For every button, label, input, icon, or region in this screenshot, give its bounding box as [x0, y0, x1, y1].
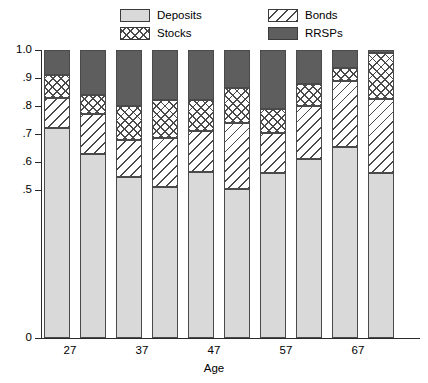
- bar-segment-stocks: [260, 109, 286, 133]
- bar-segment-stocks: [224, 88, 250, 123]
- y-axis-tick-label: 0: [26, 331, 32, 344]
- bar-segment-rrsps: [44, 50, 70, 75]
- chart-legend: Deposits Bonds Stocks RRSPs: [120, 6, 420, 42]
- bar-segment-bonds: [260, 133, 286, 174]
- bar-segment-rrsps: [152, 50, 178, 100]
- bar-segment-stocks: [332, 68, 358, 81]
- y-axis-tick-label: .7: [22, 127, 32, 140]
- bar-segment-stocks: [368, 53, 394, 99]
- legend-label-deposits: Deposits: [157, 9, 202, 22]
- bar-segment-bonds: [152, 138, 178, 187]
- bar-segment-rrsps: [332, 50, 358, 68]
- y-axis-tick: .8: [35, 106, 41, 107]
- y-axis-tick: .7: [35, 134, 41, 135]
- x-axis-tick-label: 27: [40, 344, 100, 357]
- y-axis-tick: .9: [35, 78, 41, 79]
- legend-item-bonds: Bonds: [268, 8, 338, 23]
- bar-segment-deposits: [296, 159, 322, 338]
- x-axis-tick-label: 57: [256, 344, 316, 357]
- bar-segment-bonds: [332, 81, 358, 147]
- x-axis-line: [41, 338, 420, 339]
- bar-segment-deposits: [152, 187, 178, 338]
- bar-segment-deposits: [368, 173, 394, 338]
- y-axis-tick: 1.0: [35, 50, 41, 51]
- legend-label-rrsps: RRSPs: [305, 27, 343, 40]
- legend-item-stocks: Stocks: [120, 26, 192, 41]
- bar-segment-deposits: [332, 147, 358, 338]
- x-axis-tick-label: 67: [328, 344, 388, 357]
- bar-segment-rrsps: [260, 50, 286, 109]
- bar-segment-rrsps: [224, 50, 250, 88]
- bar-segment-bonds: [224, 123, 250, 189]
- bar-62: [296, 50, 322, 338]
- bar-segment-rrsps: [116, 50, 142, 106]
- bar-segment-bonds: [296, 106, 322, 159]
- bar-57: [260, 50, 286, 338]
- bar-segment-stocks: [44, 75, 70, 97]
- legend-swatch-deposits-icon: [120, 9, 150, 22]
- y-axis-tick: .6: [35, 162, 41, 163]
- legend-item-deposits: Deposits: [120, 8, 202, 23]
- bar-47: [188, 50, 214, 338]
- legend-swatch-rrsps-icon: [268, 27, 298, 40]
- y-axis-line: [41, 50, 42, 339]
- bar-segment-rrsps: [296, 50, 322, 84]
- stacked-bar-chart: Deposits Bonds Stocks RRSPs 1.0.9.8.7.6.…: [0, 0, 428, 383]
- bar-segment-bonds: [368, 99, 394, 173]
- x-axis-tick-label: 47: [184, 344, 244, 357]
- y-axis-tick: .5: [35, 190, 41, 191]
- y-axis-tick-label: .5: [22, 183, 32, 196]
- y-axis-tick-label: .8: [22, 99, 32, 112]
- y-axis-tick: 0: [35, 338, 41, 339]
- bar-segment-bonds: [188, 131, 214, 172]
- bar-segment-rrsps: [188, 50, 214, 100]
- bar-segment-stocks: [188, 100, 214, 131]
- y-axis-tick-label: .9: [22, 71, 32, 84]
- legend-label-bonds: Bonds: [305, 9, 338, 22]
- bar-segment-bonds: [80, 114, 106, 153]
- bar-segment-deposits: [188, 172, 214, 338]
- legend-swatch-bonds-icon: [268, 9, 298, 22]
- bar-segment-stocks: [80, 95, 106, 115]
- bar-42: [152, 50, 178, 338]
- y-axis-tick-label: 1.0: [16, 43, 32, 56]
- bar-67: [332, 50, 358, 338]
- bar-segment-stocks: [116, 106, 142, 140]
- bar-27: [44, 50, 70, 338]
- bar-37: [116, 50, 142, 338]
- bar-segment-stocks: [152, 100, 178, 138]
- legend-item-rrsps: RRSPs: [268, 26, 343, 41]
- bar-72: [368, 50, 394, 338]
- plot-area: 1.0.9.8.7.6.50 2737475767: [41, 50, 420, 338]
- bar-52: [224, 50, 250, 338]
- bar-segment-bonds: [116, 140, 142, 178]
- x-axis-title: Age: [0, 362, 428, 375]
- bar-segment-bonds: [44, 98, 70, 129]
- legend-swatch-stocks-icon: [120, 27, 150, 40]
- legend-label-stocks: Stocks: [157, 27, 192, 40]
- bar-32: [80, 50, 106, 338]
- bar-segment-deposits: [80, 154, 106, 338]
- x-axis-tick-label: 37: [112, 344, 172, 357]
- bar-segment-deposits: [260, 173, 286, 338]
- bar-segment-deposits: [224, 189, 250, 338]
- bar-segment-deposits: [44, 128, 70, 338]
- bar-segment-stocks: [296, 84, 322, 106]
- bar-segment-deposits: [116, 177, 142, 338]
- y-axis-tick-label: .6: [22, 155, 32, 168]
- bar-segment-rrsps: [80, 50, 106, 95]
